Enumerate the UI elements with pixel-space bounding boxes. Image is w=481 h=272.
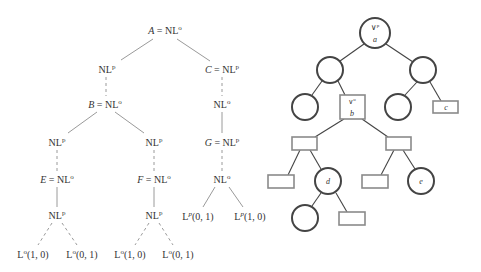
- label-e: e: [419, 177, 423, 186]
- node-nl-o-2: NLo: [214, 173, 231, 185]
- label-c: c: [444, 103, 448, 112]
- leaf-lo-1-0-a: Lo(1, 0): [17, 248, 48, 261]
- circle-node-e: e: [408, 168, 434, 194]
- node-nl-p-1: NLp: [99, 63, 116, 75]
- node-nl-p-3: NLp: [146, 136, 163, 148]
- rect-node-c: c: [433, 101, 458, 113]
- label-a: a: [373, 35, 377, 44]
- circle-node: [317, 57, 343, 83]
- rect-node: [292, 137, 317, 150]
- leaf-lp-0-1: Lp(0, 1): [182, 210, 213, 223]
- rect-node: [268, 175, 294, 188]
- circle-node-d: d: [315, 168, 341, 194]
- leaf-lo-0-1-b: Lo(0, 1): [162, 248, 193, 261]
- node-nl-p-2: NLp: [49, 136, 66, 148]
- node-F: F = NLo: [136, 173, 171, 185]
- node-nl-p-4: NLp: [49, 209, 66, 221]
- node-nl-p-5: NLp: [146, 209, 163, 221]
- node-nl-o-1: NLo: [214, 98, 231, 110]
- root-circle-a: ∨p a: [360, 18, 390, 48]
- game-tree-diagram: A = NLo NLp C = NLp B = NLo NLo NLp NLp …: [0, 0, 481, 272]
- leaf-lo-0-1-a: Lo(0, 1): [66, 248, 97, 261]
- leaf-lo-1-0-b: Lo(1, 0): [114, 248, 145, 261]
- rect-node: [362, 175, 388, 188]
- label-b: b: [350, 109, 354, 118]
- node-B: B = NLo: [88, 98, 122, 110]
- square-node-b: ∨o b: [340, 95, 365, 119]
- node-A: A = NLo: [147, 24, 182, 36]
- circle-node: [292, 205, 318, 231]
- node-C: C = NLp: [205, 63, 240, 75]
- node-G: G = NLp: [205, 136, 240, 148]
- circle-node: [385, 94, 411, 120]
- node-E: E = NLo: [39, 173, 74, 185]
- right-tree-nodes: ∨p a ∨o b c d e: [268, 18, 458, 231]
- circle-node: [292, 94, 318, 120]
- circle-node: [410, 57, 436, 83]
- left-tree-nodes: A = NLo NLp C = NLp B = NLo NLo NLp NLp …: [17, 24, 265, 261]
- leaf-lp-1-0: Lp(1, 0): [234, 210, 265, 223]
- rect-node: [339, 212, 365, 225]
- rect-node: [386, 137, 411, 150]
